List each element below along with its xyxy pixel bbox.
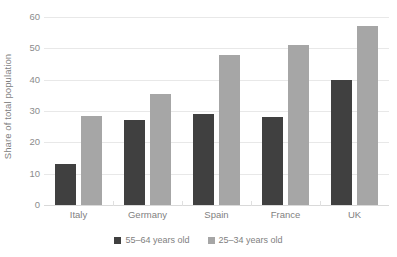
y-axis-tick-label: 50 bbox=[16, 44, 40, 54]
legend-item[interactable]: 25–34 years old bbox=[208, 235, 283, 245]
y-axis-tick-labels: 0102030405060 bbox=[16, 17, 40, 205]
bar-group bbox=[251, 17, 320, 205]
bar[interactable] bbox=[193, 114, 214, 205]
y-axis-tick-label: 40 bbox=[16, 75, 40, 85]
bar[interactable] bbox=[288, 45, 309, 205]
y-axis-tick-label: 60 bbox=[16, 12, 40, 22]
bar[interactable] bbox=[55, 164, 76, 205]
x-axis-tick-label-italy: Italy bbox=[44, 207, 113, 223]
bar[interactable] bbox=[81, 116, 102, 205]
y-axis-tick-label: 0 bbox=[16, 200, 40, 210]
square-marker-dark-icon bbox=[114, 237, 121, 244]
x-axis-tick-label-france: France bbox=[251, 207, 320, 223]
bar[interactable] bbox=[262, 117, 283, 205]
y-axis-title: Share of total population bbox=[0, 0, 16, 212]
bar[interactable] bbox=[357, 26, 378, 205]
legend-item[interactable]: 55–64 years old bbox=[114, 235, 189, 245]
square-marker-light-icon bbox=[208, 237, 215, 244]
legend-item-label: 55–64 years old bbox=[125, 235, 189, 245]
x-axis-tick-label-uk: UK bbox=[320, 207, 389, 223]
x-axis-tick-label-germany: Germany bbox=[113, 207, 182, 223]
y-axis-tick-label: 20 bbox=[16, 138, 40, 148]
bar[interactable] bbox=[331, 80, 352, 205]
bar-group bbox=[320, 17, 389, 205]
y-axis-tick-label: 30 bbox=[16, 106, 40, 116]
bar[interactable] bbox=[124, 120, 145, 205]
bar-group bbox=[113, 17, 182, 205]
legend-item-label: 25–34 years old bbox=[219, 235, 283, 245]
bar-group bbox=[182, 17, 251, 205]
bar[interactable] bbox=[150, 94, 171, 205]
bar-chart: Share of total population 0102030405060 … bbox=[0, 0, 397, 257]
x-axis-tick-labels: ItalyGermanySpainFranceUK bbox=[44, 207, 389, 223]
bar-group bbox=[44, 17, 113, 205]
bars-layer bbox=[44, 17, 389, 205]
chart-legend: 55–64 years old25–34 years old bbox=[0, 232, 397, 248]
x-axis-tick-label-spain: Spain bbox=[182, 207, 251, 223]
y-axis-title-text: Share of total population bbox=[3, 53, 14, 159]
y-axis-tick-label: 10 bbox=[16, 169, 40, 179]
bar[interactable] bbox=[219, 55, 240, 205]
axis-baseline bbox=[44, 205, 389, 206]
